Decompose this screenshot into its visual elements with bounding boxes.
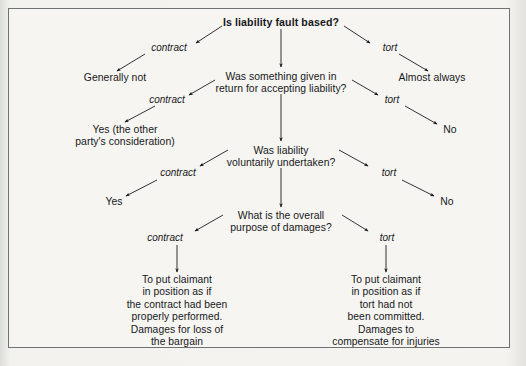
outcome-node-tort-damages: To put claimant in position as if tort h…	[296, 274, 476, 348]
outcome-node-yes-consideration: Yes (the other party's consideration)	[40, 124, 210, 148]
edge-q1-to-contract-label	[196, 26, 222, 43]
edge-contract-label-to-yes-2	[126, 180, 157, 196]
edge-tort-label-to-almost-always	[399, 54, 428, 71]
outcome-node-yes-level3: Yes	[84, 196, 144, 208]
outcome-node-almost-always: Almost always	[367, 72, 497, 84]
outcome-node-no-level2: No	[425, 124, 475, 136]
question-node-purpose-of-damages: What is the overall purpose of damages?	[196, 210, 366, 234]
edge-label-tort-level2: tort	[385, 94, 399, 105]
question-node-consideration: Was something given in return for accept…	[186, 71, 376, 95]
page-canvas: Is liability fault based? contract tort …	[0, 0, 526, 366]
edge-label-contract-level2: contract	[149, 94, 185, 105]
outcome-node-no-level3: No	[422, 196, 472, 208]
edge-contract-label-to-generally-not	[117, 54, 145, 71]
edge-label-contract-level1: contract	[151, 42, 187, 53]
edge-q1-to-tort-label	[344, 26, 370, 43]
question-node-voluntarily-undertaken: Was liability voluntarily undertaken?	[196, 145, 366, 169]
edge-contract-label-to-yes-consideration	[125, 106, 155, 122]
edge-label-contract-level3: contract	[160, 167, 196, 178]
edge-tort-label-to-no-2	[402, 180, 434, 196]
outcome-node-contract-damages: To put claimant in position as if the co…	[87, 274, 267, 348]
edge-label-tort-level4: tort	[380, 232, 394, 243]
outcome-node-generally-not: Generally not	[50, 72, 180, 84]
edge-label-tort-level1: tort	[383, 42, 397, 53]
question-node-root: Is liability fault based?	[181, 16, 381, 28]
edge-label-tort-level3: tort	[382, 167, 396, 178]
edge-label-contract-level4: contract	[147, 232, 183, 243]
edge-tort-label-to-no-1	[405, 106, 437, 124]
